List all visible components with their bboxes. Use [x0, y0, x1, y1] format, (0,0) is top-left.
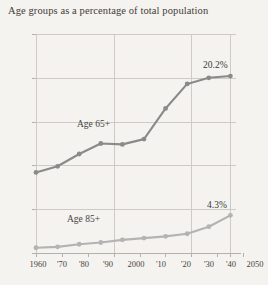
data-point [206, 75, 211, 80]
data-point [120, 142, 125, 147]
xtick-mark-1970 [62, 253, 63, 257]
xtick-mark-1960 [36, 253, 37, 257]
plot-area: 25% 20% 15% 10% 5% 0% 1960 '70 '80 '90 2… [36, 34, 236, 253]
series-label-age-65: Age 65+ [77, 119, 110, 129]
chart-container: Age groups as a percentage of total popu… [0, 0, 268, 285]
xtick-mark-1980 [88, 253, 89, 257]
xtick-label-2050: 2050 [247, 259, 264, 269]
data-point [34, 170, 39, 175]
xtick-label-2020: '20 [181, 259, 191, 269]
data-point [185, 231, 190, 236]
x-axis-line [36, 253, 241, 254]
xtick-label-1990: '90 [103, 259, 113, 269]
line-age-85 [36, 215, 230, 247]
data-point [55, 164, 60, 169]
data-point [228, 74, 233, 79]
points-age-85 [34, 213, 233, 250]
xtick-mark-2010 [165, 253, 166, 257]
data-point [98, 240, 103, 245]
xtick-label-2040: '40 [226, 259, 236, 269]
xtick-label-1960: 1960 [30, 259, 47, 269]
data-point [142, 236, 147, 241]
points-age-65 [34, 74, 233, 175]
xtick-mark-2050 [230, 253, 231, 257]
xtick-mark-2040 [243, 253, 244, 257]
value-label-age-85: 4.3% [207, 200, 227, 210]
xtick-mark-2020 [191, 253, 192, 257]
data-point [185, 82, 190, 87]
data-point [77, 152, 82, 157]
chart-title: Age groups as a percentage of total popu… [8, 5, 208, 16]
data-point [142, 137, 147, 142]
xtick-label-2010: '10 [156, 259, 166, 269]
series-label-age-85: Age 85+ [67, 214, 100, 224]
data-point [55, 244, 60, 249]
xtick-label-1980: '80 [79, 259, 89, 269]
value-label-age-65: 20.2% [203, 60, 228, 70]
data-point [77, 242, 82, 247]
xtick-mark-2030 [217, 253, 218, 257]
data-point [120, 237, 125, 242]
line-age-65 [36, 76, 230, 172]
data-point [163, 106, 168, 111]
xtick-label-2030: '30 [204, 259, 214, 269]
xtick-mark-1990 [114, 253, 115, 257]
data-point [98, 141, 103, 146]
data-point [206, 224, 211, 229]
xtick-label-2000: 2000 [128, 259, 145, 269]
xtick-label-1970: '70 [57, 259, 67, 269]
data-point [163, 234, 168, 239]
xtick-mark-2000 [140, 253, 141, 257]
data-point [228, 213, 233, 218]
data-point [34, 245, 39, 250]
